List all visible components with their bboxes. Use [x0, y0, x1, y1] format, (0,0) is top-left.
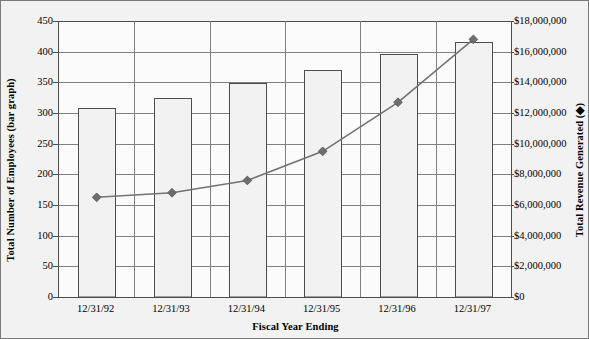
x-axis-title: Fiscal Year Ending: [1, 321, 589, 332]
bar-12-31-94: [230, 84, 267, 298]
y-axis-right-tick-label: $12,000,000: [514, 108, 567, 119]
y-axis-left-tick-label: 400: [37, 46, 53, 57]
y-axis-right-tick-label: $14,000,000: [514, 77, 567, 88]
y-axis-left-title: Total Number of Employees (bar graph): [5, 35, 16, 305]
y-axis-left-tick-label: 200: [37, 169, 53, 180]
bar-12-31-93: [155, 99, 192, 298]
y-axis-left-tick-label: 100: [37, 230, 53, 241]
chart-canvas: [59, 21, 511, 297]
x-axis-tick-label: 12/31/93: [152, 304, 189, 315]
x-axis-tick-label: 12/31/92: [77, 304, 114, 315]
y-axis-right-tick-label: $6,000,000: [514, 200, 561, 211]
y-axis-right-tick-label: $4,000,000: [514, 230, 561, 241]
x-axis-tick-label: 12/31/94: [228, 304, 265, 315]
y-axis-right-tick-label: $16,000,000: [514, 46, 567, 57]
y-axis-right-tick-label: $18,000,000: [514, 16, 567, 27]
plot-area: [58, 21, 512, 298]
y-axis-left-tick-label: 50: [43, 261, 54, 272]
y-axis-right-tick-label: $8,000,000: [514, 169, 561, 180]
y-axis-left-tick-label: 300: [37, 108, 53, 119]
x-axis-tick-label: 12/31/95: [303, 304, 340, 315]
bar-12-31-92: [79, 109, 116, 298]
x-axis-tick-label: 12/31/97: [454, 304, 491, 315]
y-axis-left-ticks: 050100150200250300350400450: [23, 1, 53, 339]
y-axis-left-tick-label: 450: [37, 16, 53, 27]
bar-12-31-95: [305, 71, 342, 298]
y-axis-left-tick-label: 150: [37, 200, 53, 211]
y-axis-right-tick-label: $2,000,000: [514, 261, 561, 272]
y-axis-left-tick-label: 350: [37, 77, 53, 88]
bar-12-31-97: [456, 43, 493, 298]
y-axis-right-tick-label: $10,000,000: [514, 138, 567, 149]
x-axis-ticks: 12/31/9212/31/9312/31/9412/31/9512/31/96…: [1, 304, 589, 320]
y-axis-right-ticks: $0$2,000,000$4,000,000$6,000,000$8,000,0…: [514, 1, 586, 339]
y-axis-left-tick-label: 250: [37, 138, 53, 149]
chart-figure: Total Number of Employees (bar graph) To…: [0, 0, 589, 339]
y-axis-right-tick-label: $0: [514, 292, 525, 303]
x-axis-tick-label: 12/31/96: [378, 304, 415, 315]
